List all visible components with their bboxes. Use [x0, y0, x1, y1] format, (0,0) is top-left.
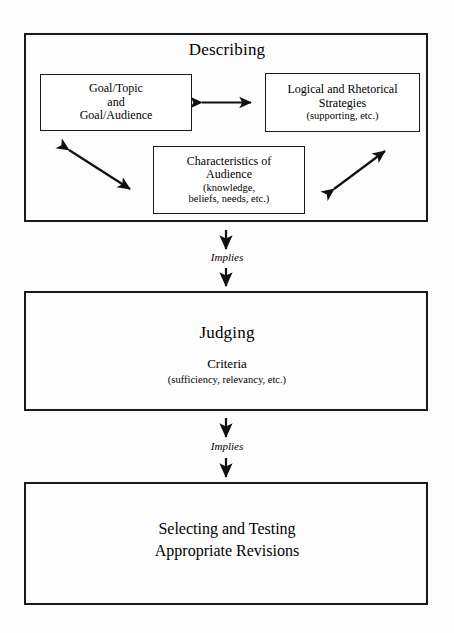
- selecting-testing-line-1: Selecting and Testing: [0, 518, 454, 540]
- judging-note: (sufficiency, relevancy, etc.): [0, 373, 454, 387]
- judging-heading: Judging: [0, 322, 454, 345]
- describing-heading: Describing: [0, 40, 454, 60]
- selecting-testing-text: Selecting and Testing Appropriate Revisi…: [0, 518, 454, 561]
- goal-topic-line-3: Goal/Audience: [80, 109, 153, 122]
- strategies-line-3: (supporting, etc.): [306, 110, 378, 122]
- judging-criteria-wrap: Criteria (sufficiency, relevancy, etc.): [0, 355, 454, 387]
- selecting-testing-line-2: Appropriate Revisions: [0, 540, 454, 562]
- implies-label-2: Implies: [0, 440, 454, 452]
- audience-line-1: Characteristics of: [187, 155, 271, 168]
- diagram-canvas: Describing Goal/Topic and Goal/Audience …: [0, 0, 454, 633]
- characteristics-of-audience-box: Characteristics of Audience (knowledge, …: [153, 146, 305, 214]
- implies-label-1: Implies: [0, 251, 454, 263]
- judging-heading-wrap: Judging: [0, 322, 454, 345]
- audience-line-3: (knowledge,: [203, 182, 255, 194]
- goal-topic-line-1: Goal/Topic: [89, 82, 143, 95]
- strategies-line-2: Strategies: [319, 97, 366, 110]
- goal-topic-audience-box: Goal/Topic and Goal/Audience: [40, 74, 192, 131]
- audience-line-2: Audience: [206, 168, 252, 181]
- judging-subheading: Criteria: [0, 355, 454, 373]
- goal-topic-line-2: and: [107, 96, 124, 109]
- logical-rhetorical-strategies-box: Logical and Rhetorical Strategies (suppo…: [265, 73, 420, 132]
- judging-stage-box: [24, 291, 428, 411]
- strategies-line-1: Logical and Rhetorical: [288, 83, 398, 96]
- audience-line-4: beliefs, needs, etc.): [189, 193, 270, 205]
